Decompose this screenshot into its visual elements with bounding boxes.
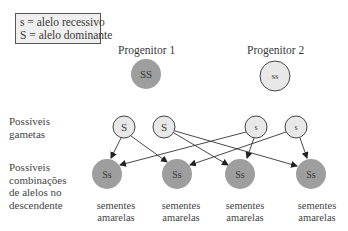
phenotype-line: amarelas xyxy=(287,212,347,224)
cross-diagram: SS ss S S s s Ss Ss Ss xyxy=(0,0,348,231)
phenotype-line: amarelas xyxy=(215,212,275,224)
gamete-3-node: s xyxy=(245,116,267,138)
gamete-1-allele: S xyxy=(121,121,127,133)
offspring-4-node: Ss xyxy=(296,159,326,189)
parent-2-genotype: ss xyxy=(271,71,279,81)
phenotype-line: sementes xyxy=(287,200,347,212)
gamete-4-node: s xyxy=(285,116,307,138)
offspring-1-phenotype: sementes amarelas xyxy=(86,200,146,224)
parent-2-node: ss xyxy=(260,61,290,91)
offspring-2-node: Ss xyxy=(162,159,192,189)
offspring-3-genotype: Ss xyxy=(235,169,245,180)
arrow-g4-o4 xyxy=(300,138,307,158)
offspring-4-genotype: Ss xyxy=(306,169,316,180)
gamete-1-node: S xyxy=(113,116,135,138)
offspring-3-phenotype: sementes amarelas xyxy=(215,200,275,224)
phenotype-line: sementes xyxy=(151,200,211,212)
gamete-2-allele: S xyxy=(161,121,167,133)
phenotype-line: amarelas xyxy=(151,212,211,224)
offspring-1-node: Ss xyxy=(92,159,122,189)
offspring-2-genotype: Ss xyxy=(172,169,182,180)
parent-1-node: SS xyxy=(131,59,161,89)
offspring-1-genotype: Ss xyxy=(102,169,112,180)
arrow-g1-o2 xyxy=(131,136,167,162)
arrow-g3-o3 xyxy=(247,138,254,158)
offspring-4-phenotype: sementes amarelas xyxy=(287,200,347,224)
offspring-3-node: Ss xyxy=(225,159,255,189)
gamete-4-allele: s xyxy=(294,123,297,132)
phenotype-line: sementes xyxy=(86,200,146,212)
phenotype-line: amarelas xyxy=(86,212,146,224)
arrows xyxy=(111,131,307,166)
offspring-2-phenotype: sementes amarelas xyxy=(151,200,211,224)
arrow-g3-o1 xyxy=(120,132,246,165)
parent-1-genotype: SS xyxy=(140,68,152,80)
phenotype-line: sementes xyxy=(215,200,275,212)
gamete-2-node: S xyxy=(153,116,175,138)
arrow-g1-o1 xyxy=(111,138,121,158)
gamete-3-allele: s xyxy=(254,123,257,132)
